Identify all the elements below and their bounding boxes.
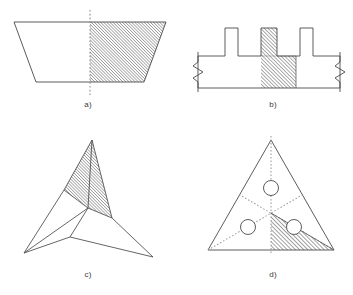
technical-figure-sheet [0,0,353,295]
hole-top [264,181,279,196]
panel-label-a: a) [68,100,108,109]
hole-bottom-right [287,220,302,235]
hole-bottom-left [241,220,256,235]
panel-label-c: c) [68,270,108,279]
panel-label-d: d) [253,270,293,279]
panel-label-b: b) [253,100,293,109]
